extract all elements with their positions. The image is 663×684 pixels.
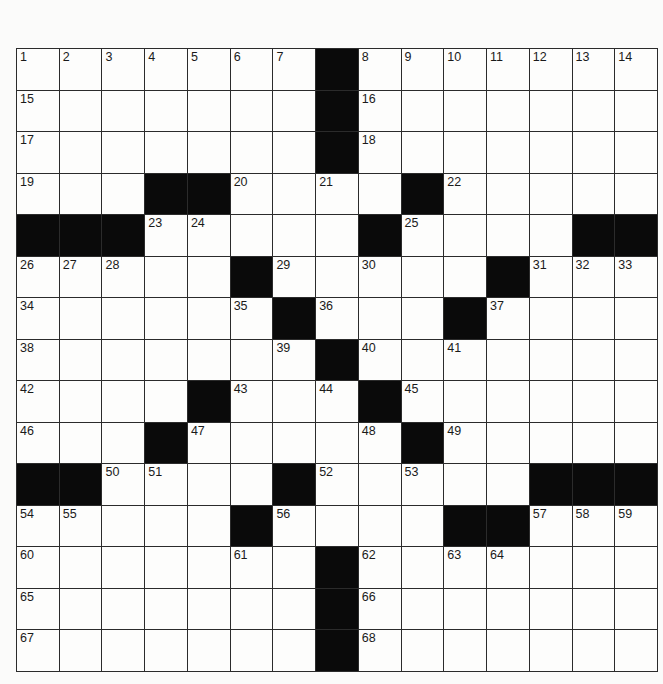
grid-cell[interactable] <box>145 381 187 422</box>
grid-cell[interactable] <box>273 91 315 132</box>
grid-cell[interactable] <box>573 298 615 339</box>
grid-cell[interactable]: 38 <box>17 340 59 381</box>
grid-cell[interactable] <box>573 589 615 630</box>
grid-cell[interactable]: 3 <box>102 49 144 90</box>
grid-cell[interactable] <box>487 174 529 215</box>
grid-cell[interactable]: 33 <box>615 257 657 298</box>
grid-cell[interactable] <box>316 423 358 464</box>
grid-cell[interactable]: 40 <box>359 340 401 381</box>
grid-cell[interactable] <box>188 91 230 132</box>
grid-cell[interactable] <box>530 174 572 215</box>
grid-cell[interactable]: 9 <box>402 49 444 90</box>
grid-cell[interactable] <box>573 174 615 215</box>
grid-cell[interactable]: 25 <box>402 215 444 256</box>
grid-cell[interactable] <box>530 340 572 381</box>
grid-cell[interactable]: 58 <box>573 506 615 547</box>
grid-cell[interactable]: 64 <box>487 547 529 588</box>
grid-cell[interactable]: 54 <box>17 506 59 547</box>
grid-cell[interactable] <box>530 132 572 173</box>
grid-cell[interactable]: 1 <box>17 49 59 90</box>
grid-cell[interactable] <box>444 215 486 256</box>
grid-cell[interactable]: 26 <box>17 257 59 298</box>
grid-cell[interactable] <box>188 340 230 381</box>
grid-cell[interactable] <box>145 257 187 298</box>
grid-cell[interactable] <box>573 630 615 671</box>
grid-cell[interactable] <box>444 257 486 298</box>
grid-cell[interactable] <box>573 91 615 132</box>
grid-cell[interactable] <box>145 91 187 132</box>
grid-cell[interactable] <box>402 298 444 339</box>
grid-cell[interactable]: 24 <box>188 215 230 256</box>
grid-cell[interactable] <box>615 174 657 215</box>
grid-cell[interactable]: 55 <box>60 506 102 547</box>
grid-cell[interactable] <box>402 506 444 547</box>
grid-cell[interactable] <box>487 340 529 381</box>
grid-cell[interactable]: 48 <box>359 423 401 464</box>
grid-cell[interactable] <box>60 630 102 671</box>
grid-cell[interactable] <box>615 381 657 422</box>
grid-cell[interactable]: 46 <box>17 423 59 464</box>
grid-cell[interactable] <box>487 464 529 505</box>
grid-cell[interactable] <box>231 215 273 256</box>
grid-cell[interactable] <box>102 174 144 215</box>
grid-cell[interactable]: 15 <box>17 91 59 132</box>
grid-cell[interactable]: 45 <box>402 381 444 422</box>
grid-cell[interactable] <box>145 547 187 588</box>
grid-cell[interactable] <box>60 174 102 215</box>
grid-cell[interactable] <box>188 589 230 630</box>
grid-cell[interactable] <box>530 423 572 464</box>
grid-cell[interactable] <box>102 630 144 671</box>
grid-cell[interactable] <box>102 589 144 630</box>
grid-cell[interactable]: 2 <box>60 49 102 90</box>
grid-cell[interactable] <box>316 215 358 256</box>
grid-cell[interactable]: 31 <box>530 257 572 298</box>
grid-cell[interactable] <box>402 257 444 298</box>
grid-cell[interactable] <box>145 132 187 173</box>
grid-cell[interactable]: 66 <box>359 589 401 630</box>
grid-cell[interactable]: 29 <box>273 257 315 298</box>
grid-cell[interactable] <box>487 381 529 422</box>
grid-cell[interactable] <box>444 464 486 505</box>
grid-cell[interactable] <box>60 589 102 630</box>
grid-cell[interactable]: 59 <box>615 506 657 547</box>
grid-cell[interactable] <box>444 630 486 671</box>
grid-cell[interactable] <box>487 215 529 256</box>
grid-cell[interactable] <box>359 464 401 505</box>
grid-cell[interactable] <box>402 340 444 381</box>
grid-cell[interactable] <box>273 423 315 464</box>
grid-cell[interactable] <box>615 298 657 339</box>
grid-cell[interactable] <box>102 423 144 464</box>
grid-cell[interactable] <box>530 630 572 671</box>
grid-cell[interactable] <box>273 589 315 630</box>
grid-cell[interactable]: 56 <box>273 506 315 547</box>
grid-cell[interactable]: 57 <box>530 506 572 547</box>
grid-cell[interactable]: 65 <box>17 589 59 630</box>
grid-cell[interactable]: 32 <box>573 257 615 298</box>
grid-cell[interactable] <box>487 423 529 464</box>
grid-cell[interactable]: 22 <box>444 174 486 215</box>
grid-cell[interactable] <box>231 589 273 630</box>
grid-cell[interactable] <box>60 91 102 132</box>
grid-cell[interactable] <box>530 215 572 256</box>
grid-cell[interactable] <box>487 91 529 132</box>
grid-cell[interactable]: 63 <box>444 547 486 588</box>
grid-cell[interactable]: 10 <box>444 49 486 90</box>
grid-cell[interactable]: 52 <box>316 464 358 505</box>
grid-cell[interactable] <box>145 340 187 381</box>
grid-cell[interactable] <box>615 91 657 132</box>
grid-cell[interactable]: 41 <box>444 340 486 381</box>
grid-cell[interactable]: 67 <box>17 630 59 671</box>
grid-cell[interactable]: 35 <box>231 298 273 339</box>
grid-cell[interactable] <box>487 630 529 671</box>
grid-cell[interactable] <box>188 298 230 339</box>
grid-cell[interactable] <box>530 547 572 588</box>
grid-cell[interactable]: 34 <box>17 298 59 339</box>
grid-cell[interactable] <box>273 547 315 588</box>
grid-cell[interactable] <box>444 381 486 422</box>
grid-cell[interactable] <box>359 174 401 215</box>
grid-cell[interactable] <box>615 630 657 671</box>
grid-cell[interactable]: 36 <box>316 298 358 339</box>
grid-cell[interactable] <box>102 132 144 173</box>
grid-cell[interactable]: 5 <box>188 49 230 90</box>
grid-cell[interactable]: 39 <box>273 340 315 381</box>
